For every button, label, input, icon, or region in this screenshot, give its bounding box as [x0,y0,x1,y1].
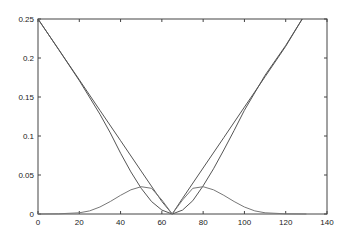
y-tick-label: 0.25 [18,15,34,24]
x-axis-tick-labels: 020406080100120140 [36,218,334,227]
x-tick-label: 0 [36,218,41,227]
x-tick-label: 20 [75,218,84,227]
x-tick-label: 120 [279,218,293,227]
y-axis-tick-labels: 00.050.10.150.20.25 [18,15,34,219]
x-tick-label: 100 [238,218,252,227]
y-tick-label: 0.1 [23,132,35,141]
y-tick-label: 0 [30,210,35,219]
y-tick-label: 0.15 [18,93,34,102]
x-tick-label: 80 [199,218,208,227]
x-tick-label: 60 [157,218,166,227]
line-chart: 020406080100120140 00.050.10.150.20.25 [0,0,349,233]
x-tick-label: 140 [320,218,334,227]
y-tick-label: 0.2 [23,54,35,63]
x-tick-label: 40 [116,218,125,227]
y-tick-label: 0.05 [18,171,34,180]
